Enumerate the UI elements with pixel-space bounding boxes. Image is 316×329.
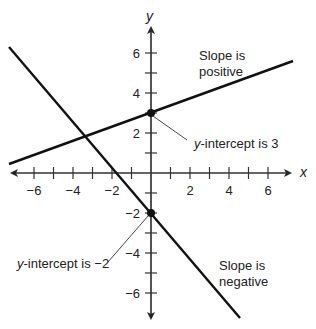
y-tick-label: 6 <box>133 46 140 61</box>
svg-text:Slope is: Slope is <box>219 258 266 273</box>
y-axis-name: y <box>145 8 154 24</box>
x-tick-label: 6 <box>264 183 271 198</box>
annotation-slope-negative: Slope is negative <box>219 258 268 289</box>
svg-text:negative: negative <box>219 274 268 289</box>
x-tick-label: 4 <box>225 183 232 198</box>
graph-figure: −6 −4 −2 2 4 6 x 6 4 2 −2 −4 −6 y <box>0 0 316 329</box>
y-intercept-point-3 <box>147 109 155 117</box>
y-intercept-point-neg2 <box>147 209 155 217</box>
x-tick-label: −4 <box>66 183 81 198</box>
svg-text:positive: positive <box>199 64 243 79</box>
x-axis: −6 −4 −2 2 4 6 x <box>12 164 308 198</box>
leader-line-intercept-3 <box>153 116 187 140</box>
x-tick-label: 2 <box>186 183 193 198</box>
y-tick-label: 4 <box>133 86 140 101</box>
x-tick-label: −6 <box>27 183 42 198</box>
y-tick-label: −4 <box>125 246 140 261</box>
y-tick-label: 2 <box>133 126 140 141</box>
y-tick-label: −2 <box>125 206 140 221</box>
annotation-y-intercept-3: y-intercept is 3 <box>193 136 279 151</box>
y-axis: 6 4 2 −2 −4 −6 y <box>125 8 157 318</box>
negative-slope-line <box>9 47 240 318</box>
coordinate-plane: −6 −4 −2 2 4 6 x 6 4 2 −2 −4 −6 y <box>0 0 316 329</box>
y-tick-label: −6 <box>125 286 140 301</box>
x-tick-label: −2 <box>105 183 120 198</box>
annotation-y-intercept-neg2: y-intercept is −2 <box>16 256 109 271</box>
svg-text:Slope is: Slope is <box>199 48 246 63</box>
x-axis-name: x <box>299 164 308 180</box>
annotation-slope-positive: Slope is positive <box>199 48 246 79</box>
